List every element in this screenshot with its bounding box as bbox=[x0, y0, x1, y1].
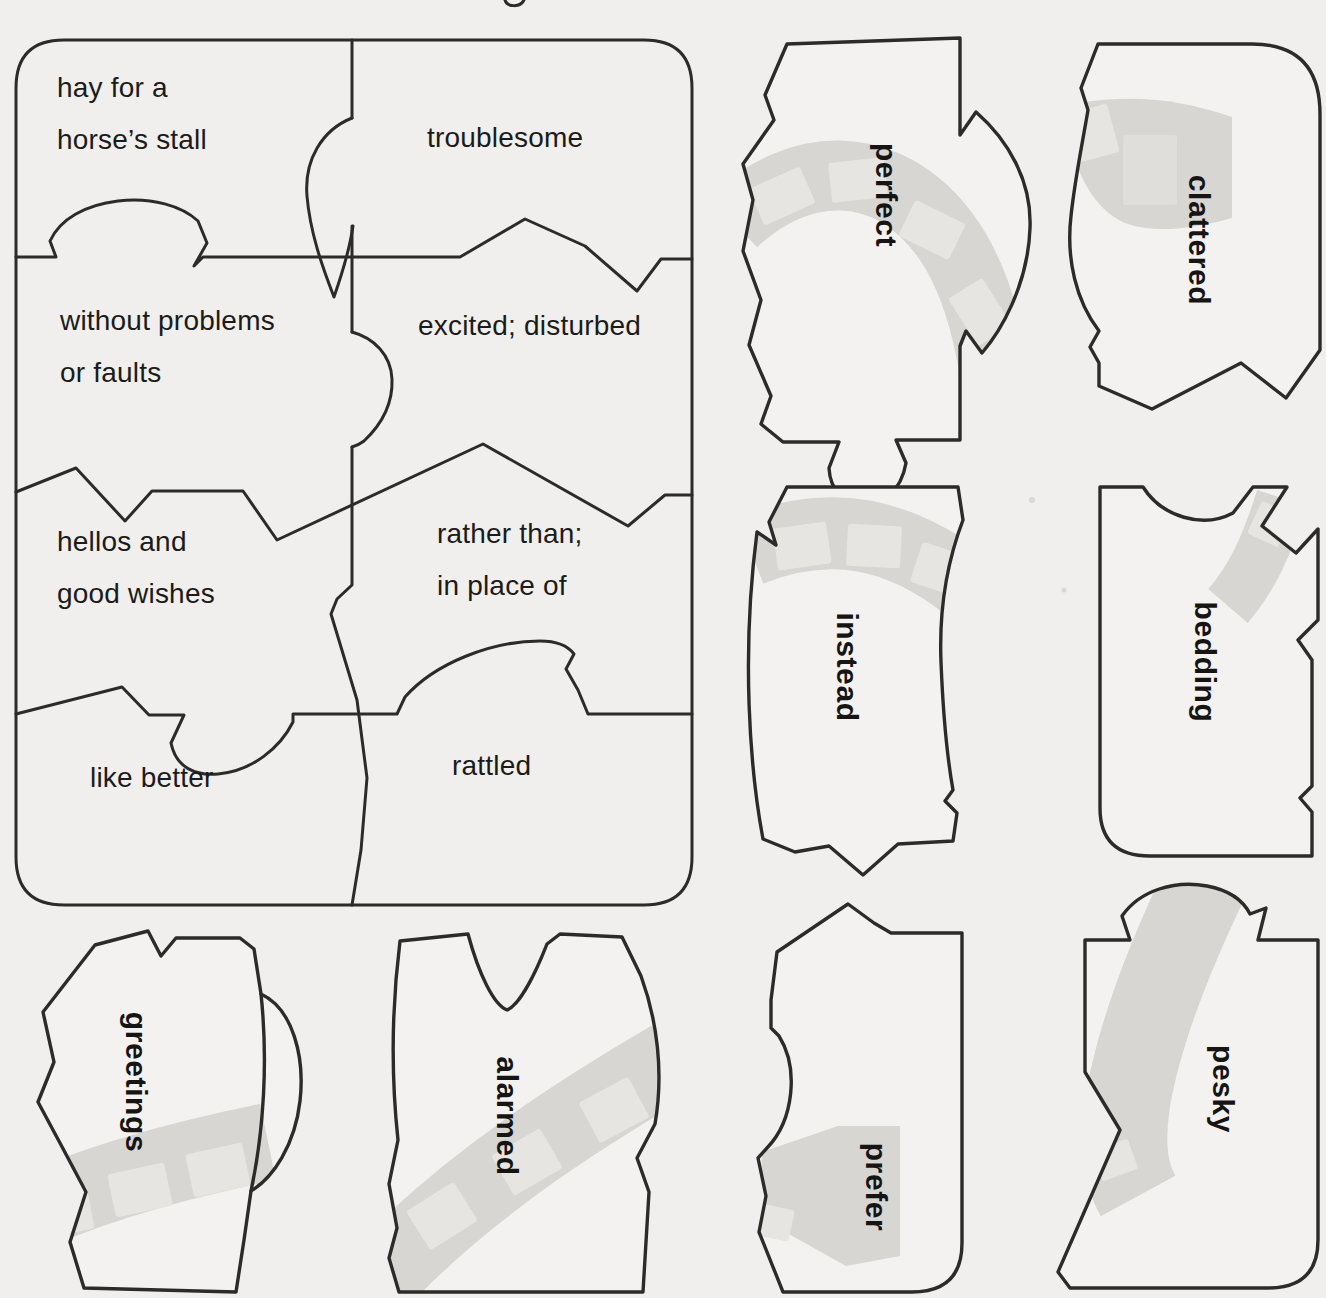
worksheet-page: hay for a horse’s stall troublesome with… bbox=[0, 0, 1326, 1298]
scan-speckle bbox=[1062, 588, 1067, 593]
board-knob-flame bbox=[307, 118, 353, 297]
puzzle-piece-alarmed bbox=[378, 934, 672, 1292]
definition-line: like better bbox=[90, 752, 214, 804]
definition-line: rattled bbox=[452, 740, 531, 792]
board-cell-definition: hellos and good wishes bbox=[57, 516, 215, 620]
definition-line: good wishes bbox=[57, 568, 215, 620]
piece-label-clattered: clattered bbox=[1182, 175, 1216, 305]
definition-line: or faults bbox=[60, 347, 275, 399]
scan-speckle bbox=[1029, 497, 1035, 503]
definition-line: without problems bbox=[60, 295, 275, 347]
piece-label-pesky: pesky bbox=[1206, 1045, 1240, 1133]
piece-label-bedding: bedding bbox=[1188, 602, 1222, 723]
definition-line: hay for a bbox=[57, 62, 207, 114]
board-cell-definition: without problems or faults bbox=[60, 295, 275, 399]
board-divider-row1-right bbox=[352, 219, 692, 291]
piece-label-prefer: prefer bbox=[859, 1143, 893, 1232]
worksheet-artwork bbox=[0, 0, 1326, 1298]
board-divider-row1-left bbox=[16, 200, 352, 266]
board-cell-definition: troublesome bbox=[427, 112, 583, 164]
cutoff-title-descender bbox=[505, 0, 524, 6]
board-cell-definition: hay for a horse’s stall bbox=[57, 62, 207, 166]
puzzle-piece-greetings bbox=[24, 931, 301, 1292]
definition-line: excited; disturbed bbox=[418, 300, 641, 352]
piece-label-alarmed: alarmed bbox=[490, 1056, 524, 1175]
board-cell-definition: rattled bbox=[452, 740, 531, 792]
board-cell-definition: rather than; in place of bbox=[437, 508, 583, 612]
board-cell-definition: like better bbox=[90, 752, 214, 804]
piece-label-perfect: perfect bbox=[869, 143, 903, 247]
definition-line: horse’s stall bbox=[57, 114, 207, 166]
definition-line: hellos and bbox=[57, 516, 215, 568]
puzzle-piece-prefer bbox=[749, 904, 962, 1292]
puzzle-piece-pesky bbox=[1058, 868, 1318, 1288]
board-cell-definition: excited; disturbed bbox=[418, 300, 641, 352]
piece-label-greetings: greetings bbox=[119, 1012, 153, 1152]
definition-line: in place of bbox=[437, 560, 583, 612]
board-knob-right bbox=[352, 332, 392, 447]
definition-line: rather than; bbox=[437, 508, 583, 560]
definition-line: troublesome bbox=[427, 112, 583, 164]
piece-label-instead: instead bbox=[830, 612, 864, 721]
board-divider bbox=[331, 447, 367, 905]
puzzle-piece-perfect bbox=[733, 38, 1030, 506]
